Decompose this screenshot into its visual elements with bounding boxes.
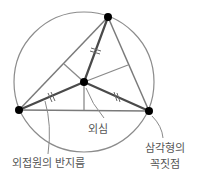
triangle-side-left [19,17,108,110]
circumradius-label: 외접원의 반지름 [12,157,86,170]
leader-circumcenter [86,88,104,118]
vertex-right-point [145,107,153,115]
triangle-side-right [108,17,149,111]
radius-to-left [19,82,84,110]
vertex-left-point [15,106,23,114]
vertex-label-line1: 삼각형의 [145,141,185,157]
radius-to-right [84,82,149,111]
vertex-top-point [104,13,112,21]
vertex-label: 삼각형의 꼭짓점 [145,141,185,173]
bisector-right-side [84,65,128,82]
leader-radius [45,101,49,154]
leader-vertex [152,116,163,138]
vertex-label-line2: 꼭짓점 [145,157,185,173]
circumcenter-label: 외심 [88,123,108,136]
triangle-side-bottom [19,110,149,111]
circumcircle-diagram: 외심 외접원의 반지름 삼각형의 꼭짓점 [0,0,198,187]
circumcenter-point [80,78,88,86]
bisector-left-side [64,64,84,82]
